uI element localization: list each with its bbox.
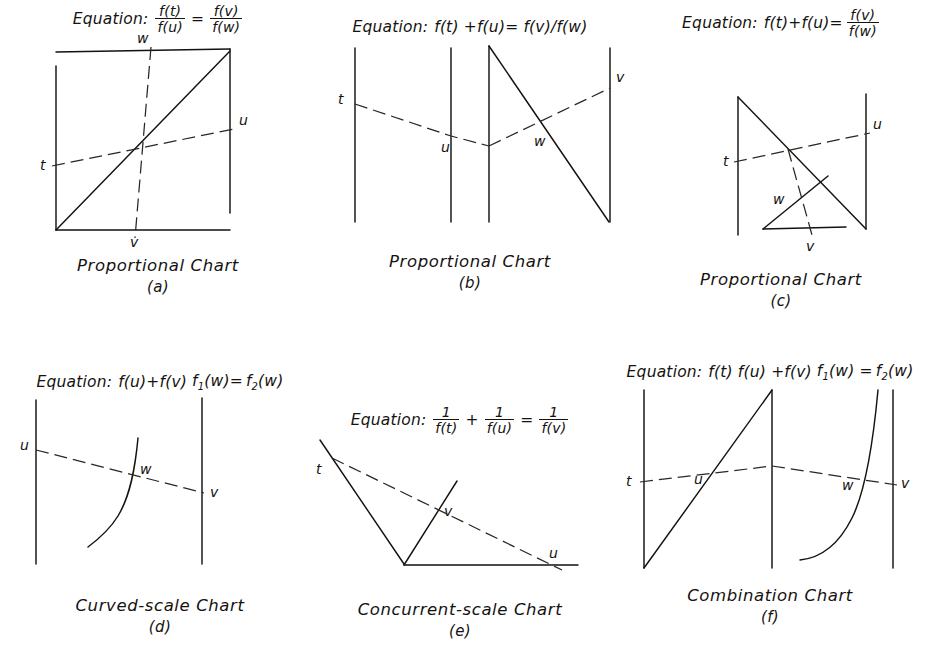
chart-e: Equation: 1 f(t) + 1 f(u) = 1 f(v)	[300, 405, 620, 663]
equation-body-d: f(u)+f(v)	[118, 373, 187, 391]
numerator: 1	[493, 405, 506, 419]
scale-line-v	[404, 481, 457, 565]
scale-label-u: u	[873, 116, 882, 132]
caption-b: Proportional Chart	[305, 252, 635, 271]
chart-f: Equation: f(t) f(u) +f(v) f1(w) = f2(w) …	[620, 362, 920, 662]
diagonal-line	[56, 51, 230, 230]
equation-label-e: Equation:	[351, 411, 427, 429]
diagram-b: t u w v	[305, 36, 635, 246]
chart-c: Equation: f(t)+f(u)= f(v) f(w) t u w	[640, 8, 922, 314]
scale-label-w: w	[534, 133, 546, 149]
equation-c: Equation: f(t)+f(u)= f(v) f(w)	[640, 8, 922, 39]
numerator: f(v)	[212, 4, 241, 18]
numerator: 1	[440, 405, 453, 419]
caption-c: Proportional Chart	[640, 270, 922, 289]
function-f1-d: f1(w)=	[192, 372, 243, 392]
caption-d: Curved-scale Chart	[14, 596, 306, 615]
scale-label-u: u	[239, 112, 248, 128]
equation-e: Equation: 1 f(t) + 1 f(u) = 1 f(v)	[300, 405, 620, 436]
scale-label-t: t	[40, 157, 46, 173]
diagram-d: u w v	[14, 392, 306, 572]
scale-label-w: w	[842, 477, 854, 493]
caption-a: Proportional Chart	[18, 256, 298, 275]
main-slant-line	[738, 97, 866, 229]
function-f1-f: f1(w) =	[817, 362, 873, 382]
index-line-right	[489, 88, 610, 146]
curved-scale-w	[88, 438, 138, 547]
denominator: f(w)	[210, 18, 242, 34]
chart-d: Equation: f(u)+f(v) f1(w)= f2(w) u w v C…	[14, 372, 306, 662]
caption-f: Combination Chart	[620, 586, 920, 605]
equation-f: Equation: f(t) f(u) +f(v) f1(w) = f2(w)	[620, 362, 920, 382]
scale-label-w: w	[773, 191, 785, 207]
index-line-left	[355, 104, 489, 146]
numerator: f(v)	[848, 8, 877, 22]
equation-label-f: Equation:	[627, 363, 703, 381]
fraction-v-e: 1 f(v)	[539, 405, 568, 436]
equation-a: Equation: f(t) f(u) = f(v) f(w)	[18, 4, 298, 35]
index-line-uv	[36, 450, 204, 493]
numerator: f(t)	[157, 4, 183, 18]
relation-e: =	[518, 411, 535, 429]
scale-label-w: w	[137, 30, 149, 46]
scale-label-v: v	[210, 484, 219, 500]
caption-e: Concurrent-scale Chart	[300, 600, 620, 619]
f1-arg: (w)=	[204, 372, 243, 390]
scale-label-v: v	[616, 69, 625, 85]
equation-label-c: Equation:	[682, 14, 758, 32]
chart-b: Equation: f(t) +f(u)= f(v)/f(w) t u w v …	[305, 18, 635, 318]
fig-label-b: (b)	[305, 274, 635, 292]
index-line-right	[772, 466, 897, 485]
scale-label-u: u	[20, 437, 29, 453]
scale-label-v: v	[130, 234, 139, 250]
fraction-rhs-a: f(v) f(w)	[210, 4, 242, 35]
scale-label-u: u	[441, 139, 450, 155]
scale-axis-v	[763, 227, 846, 229]
curved-scale-w	[800, 390, 878, 560]
fig-label-f: (f)	[620, 608, 920, 626]
fig-label-e: (e)	[300, 622, 620, 640]
scale-label-v: v	[444, 503, 453, 519]
scale-label-v: v	[806, 238, 815, 254]
numerator: 1	[547, 405, 560, 419]
f1-arg: (w) =	[829, 362, 873, 380]
equation-lhs-c: f(t)+f(u)=	[764, 14, 843, 32]
scale-label-t: t	[316, 461, 322, 477]
index-line-left	[640, 466, 772, 482]
index-line-wv	[135, 47, 151, 238]
equation-body-f: f(t) f(u) +f(v)	[708, 363, 812, 381]
denominator: f(v)	[539, 419, 568, 435]
equation-label-d: Equation:	[37, 373, 113, 391]
scale-label-t: t	[338, 91, 344, 107]
fraction-t-e: 1 f(t)	[433, 405, 459, 436]
f2-arg: (w)	[888, 362, 913, 380]
function-f2-d: f2(w)	[246, 372, 284, 392]
diagram-c: t u w v	[640, 39, 922, 264]
denominator: f(t)	[433, 419, 459, 435]
equation-b: Equation: f(t) +f(u)= f(v)/f(w)	[305, 18, 635, 36]
equation-body-b: f(t) +f(u)= f(v)/f(w)	[434, 18, 587, 36]
scale-axis-w	[56, 49, 230, 52]
denominator: f(u)	[155, 18, 185, 34]
chart-a: Equation: f(t) f(u) = f(v) f(w)	[18, 4, 298, 314]
diagram-e: t v u	[300, 436, 620, 586]
equation-d: Equation: f(u)+f(v) f1(w)= f2(w)	[14, 372, 306, 392]
equation-label-a: Equation:	[73, 10, 149, 28]
index-line-tu	[734, 133, 870, 162]
relation-a: =	[189, 10, 206, 28]
fraction-u-e: 1 f(u)	[485, 405, 515, 436]
denominator: f(w)	[847, 22, 879, 38]
f2-arg: (w)	[258, 372, 283, 390]
diagram-f: t u w v	[620, 382, 920, 578]
scale-label-t: t	[723, 153, 729, 169]
nomograph-plate: Equation: f(t) f(u) = f(v) f(w)	[0, 0, 927, 670]
scale-line-w	[489, 46, 609, 222]
scale-label-u: u	[549, 545, 558, 561]
scale-label-t: t	[626, 473, 632, 489]
fig-label-d: (d)	[14, 618, 306, 636]
function-f2-f: f2(w)	[876, 362, 914, 382]
denominator: f(u)	[485, 419, 515, 435]
fig-label-a: (a)	[18, 278, 298, 296]
fraction-lhs-a: f(t) f(u)	[155, 4, 185, 35]
scale-label-v: v	[901, 475, 910, 491]
